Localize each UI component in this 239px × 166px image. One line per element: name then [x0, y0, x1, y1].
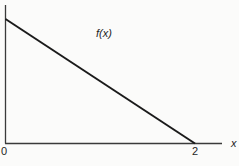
function-graph: f(x) 0 2 x: [0, 0, 239, 166]
x-axis-label: x: [231, 138, 237, 149]
origin-tick-label: 0: [1, 146, 7, 157]
function-label: f(x): [96, 28, 112, 39]
x-tick-label-2: 2: [192, 146, 198, 157]
graph-canvas: [0, 0, 239, 166]
